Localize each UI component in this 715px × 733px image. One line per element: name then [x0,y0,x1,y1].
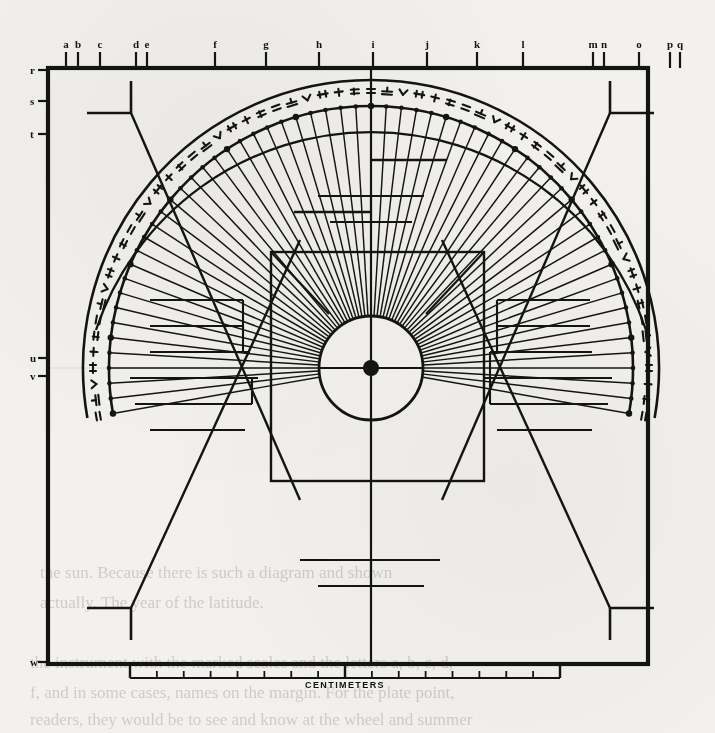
arc-tick-dot-50 [608,261,614,267]
arc-numeral-glyph-40 [518,131,529,141]
arc-numeral-glyph-7 [96,298,105,309]
arc-numeral-glyph-51 [628,267,637,278]
side-label-s: s [30,95,34,107]
arc-tick-dot-43 [548,175,553,180]
top-label-l: l [521,38,524,50]
arc-tick-dot-37 [472,125,477,130]
arc-numeral-glyph-2 [91,380,96,388]
arc-numeral-glyph-50 [622,253,630,262]
top-label-a: a [63,38,69,50]
arc-tick-dot-51 [615,276,620,281]
arc-numeral-glyph-23 [256,109,266,118]
arc-numeral-glyph-14 [144,198,153,207]
arc-tick-dot-8 [118,291,123,296]
arc-tick-dot-27 [323,108,328,113]
top-label-f: f [213,38,217,50]
radial-line-14 [161,212,329,337]
arc-tick-dot-59 [629,396,634,401]
arc-numeral-glyph-16 [164,172,175,183]
arc-tick-dot-41 [525,156,530,161]
arc-numeral-glyph-42 [545,152,554,160]
side-label-r: r [30,64,35,76]
side-label-u: u [30,352,36,364]
arc-numeral-glyph-46 [588,197,598,208]
arc-tick-dot-2 [107,381,112,386]
side-label-w: w [30,656,38,668]
arc-tick-dot-45 [569,196,575,202]
arc-numeral-glyph-4 [90,348,97,356]
diagonal-right [442,113,610,500]
arc-tick-dot-33 [414,108,419,113]
arc-tick-dot-15 [167,196,173,202]
diagonal-left [131,113,300,500]
arc-numeral-glyph-38 [491,116,500,124]
arc-numeral-glyph-8 [102,284,109,293]
arc-numeral-glyph-43 [555,160,567,172]
arc-numeral-glyph-0 [96,412,101,421]
diagonal-right-lower [442,240,610,608]
arc-tick-dot-32 [399,105,404,110]
arc-tick-dot-31 [384,104,389,109]
arc-numeral-glyph-47 [598,211,607,221]
arc-numeral-glyph-18 [189,152,198,160]
top-label-c: c [98,38,103,50]
arc-tick-dot-36 [458,120,463,125]
arc-tick-dot-17 [189,175,194,180]
side-label-v: v [30,370,36,382]
arc-tick-dot-7 [114,305,119,310]
arc-numeral-glyph-15 [153,184,164,196]
arc-numeral-glyph-11 [119,239,128,249]
arc-numeral-glyph-39 [504,122,516,132]
top-label-k: k [474,38,480,50]
arc-numeral-glyph-33 [414,90,425,98]
arc-tick-dot-16 [178,186,183,191]
arc-numeral-glyph-10 [111,253,121,263]
arc-tick-dot-6 [111,320,116,325]
arc-tick-dot-0 [110,410,116,416]
arc-tick-dot-20 [224,146,230,152]
arc-numeral-glyph-5 [92,332,99,341]
arc-tick-dot-52 [620,291,625,296]
top-label-h: h [316,38,322,50]
arc-numeral-glyph-12 [127,225,134,234]
radial-line-52 [422,293,622,353]
top-label-q: q [677,38,683,50]
top-label-j: j [425,38,429,50]
arc-tick-dot-4 [107,350,112,355]
arc-numeral-glyph-28 [334,88,343,96]
top-label-n: n [601,38,607,50]
arc-tick-dot-34 [429,111,434,116]
centimeters-caption: CENTIMETERS [305,680,385,690]
arc-numeral-glyph-13 [133,209,144,221]
arc-tick-dot-48 [596,235,601,240]
arc-tick-dot-56 [630,350,635,355]
arc-numeral-glyph-60 [641,412,646,421]
top-label-g: g [263,38,269,50]
top-label-b: b [75,38,81,50]
arc-tick-dot-26 [308,111,313,116]
radial-line-54 [423,323,629,359]
arc-numeral-glyph-22 [241,115,251,125]
arc-numeral-glyph-41 [531,141,541,151]
arc-tick-dot-9 [123,276,128,281]
arc-numeral-glyph-32 [399,89,408,95]
arc-tick-dot-18 [200,165,205,170]
arc-numeral-glyph-31 [382,87,392,95]
arc-numeral-glyph-27 [317,90,328,98]
arc-tick-dot-29 [353,104,358,109]
radial-line-24 [281,122,352,318]
arc-tick-dot-39 [500,139,505,144]
arc-tick-dot-53 [624,305,629,310]
arc-tick-dot-35 [443,114,449,120]
figure-svg [0,0,715,733]
arc-tick-dot-23 [265,125,270,130]
radial-line-9 [125,278,321,349]
arc-numeral-glyph-20 [214,132,223,141]
arc-numeral-glyph-49 [614,237,625,249]
arc-numeral-glyph-1 [91,395,99,406]
arc-numeral-glyph-25 [286,97,298,107]
arc-numeral-glyph-36 [461,104,470,110]
arc-numeral-glyph-45 [578,184,589,196]
arc-numeral-glyph-52 [632,284,641,294]
radial-line-35 [386,117,446,317]
